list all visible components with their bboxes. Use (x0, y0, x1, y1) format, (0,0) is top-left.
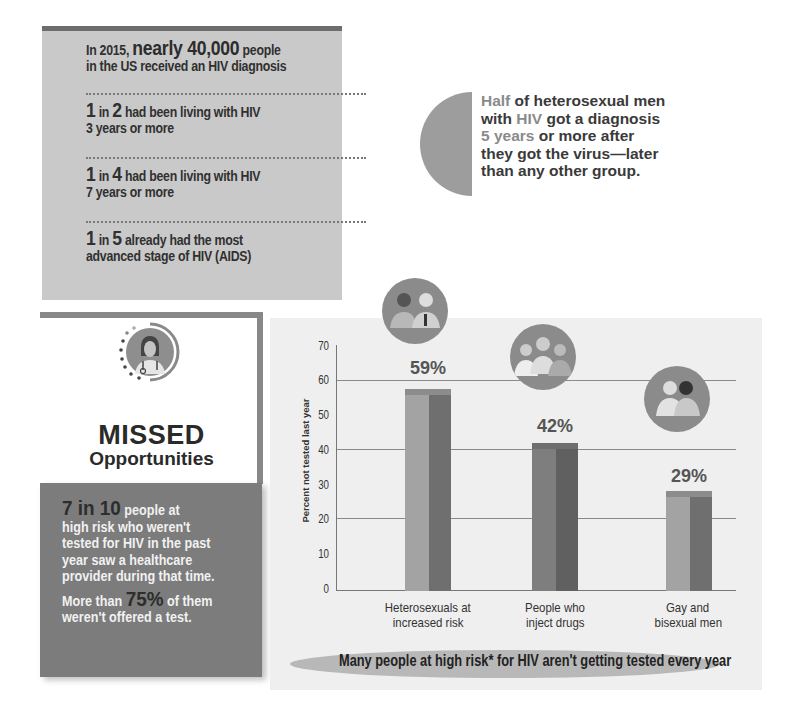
callout-highlight: Half (481, 92, 510, 109)
dotted-divider (86, 157, 366, 159)
stat-text: had been living with HIV (122, 168, 261, 184)
callout-text: got a diagnosis (542, 110, 660, 127)
callout-text: they got the virus—later (481, 145, 658, 162)
doctor-icon (110, 318, 182, 408)
stat-line2: 7 years or more (86, 185, 174, 200)
y-tick: 50 (311, 407, 329, 422)
callout-highlight: HIV (516, 110, 542, 127)
stat-in: in (96, 232, 113, 248)
group-avatar-icon (510, 324, 576, 390)
intro-pre: In 2015, (86, 42, 132, 58)
intro-bold: nearly 40,000 (132, 37, 239, 59)
stat-in: in (96, 168, 113, 184)
y-tick: 20 (311, 511, 329, 526)
intro-post: people (239, 42, 280, 58)
stat-7-in-10: 7 in 10 (62, 496, 121, 519)
y-tick: 60 (311, 372, 329, 387)
stat-line: high risk who weren't (62, 519, 190, 536)
stat-text: had been living with HIV (122, 104, 261, 120)
stat-line: year saw a healthcare (62, 552, 192, 569)
couple-avatar-icon (382, 278, 448, 344)
stat-text: of them (164, 593, 213, 609)
stat-number: 1 (86, 163, 96, 185)
stat-line: tested for HIV in the past (62, 535, 210, 552)
category-label: Heterosexuals atincreased risk (363, 600, 493, 630)
missed-subtitle: Opportunities (40, 448, 263, 470)
y-axis-label: Percent not tested last year (300, 386, 311, 536)
category-label: Gay andbisexual men (623, 600, 753, 630)
bar-drug-users[interactable] (532, 443, 578, 591)
y-tick: 30 (311, 477, 329, 492)
bar-heterosexuals[interactable] (405, 389, 451, 591)
half-circle-icon (420, 92, 472, 196)
bar-value-label: 59% (388, 358, 468, 379)
stat-in: in (96, 104, 113, 120)
y-tick: 0 (311, 581, 329, 596)
stat-line2: 3 years or more (86, 121, 174, 136)
missed-stats-text: 7 in 10 people at high risk who weren't … (62, 500, 262, 626)
chart-caption: Many people at high risk* for HIV aren't… (290, 652, 750, 670)
stats-panel: In 2015, nearly 40,000 people in the US … (42, 26, 342, 300)
stat-75-percent: 75% (126, 587, 164, 610)
stat-number: 2 (112, 99, 122, 121)
stat-number: 1 (86, 99, 96, 121)
missed-title: MISSED (40, 420, 263, 451)
y-tick: 40 (311, 442, 329, 457)
stat-item: 1 in 5 already had the most advanced sta… (86, 231, 326, 264)
y-tick: 70 (311, 338, 329, 353)
stat-line2: advanced stage of HIV (AIDS) (86, 249, 251, 264)
stat-number: 1 (86, 227, 96, 249)
heterosexual-men-callout: Half of heterosexual men with HIV got a … (481, 92, 781, 180)
bar-value-label: 42% (515, 416, 595, 437)
bar-value-label: 29% (649, 466, 729, 487)
dotted-divider (86, 93, 366, 95)
stat-intro: In 2015, nearly 40,000 people in the US … (86, 41, 326, 74)
stat-text: already had the most (122, 232, 243, 248)
stat-item: 1 in 2 had been living with HIV 3 years … (86, 103, 326, 136)
callout-text: with (481, 110, 516, 127)
category-label: People whoinject drugs (490, 600, 620, 630)
y-axis (336, 345, 337, 590)
dotted-divider (86, 221, 366, 223)
bar-gay-bisexual-men[interactable] (666, 491, 712, 591)
stat-line: provider during that time. (62, 568, 215, 585)
callout-text: than any other group. (481, 162, 640, 179)
stat-number: 5 (112, 227, 122, 249)
stat-number: 4 (112, 163, 122, 185)
stat-text: More than (62, 593, 126, 609)
callout-highlight: 5 years (481, 127, 534, 144)
intro-line2: in the US received an HIV diagnosis (86, 59, 286, 74)
stat-item: 1 in 4 had been living with HIV 7 years … (86, 167, 326, 200)
callout-text: or more after (534, 127, 634, 144)
men-avatar-icon (644, 366, 710, 432)
stat-line: weren't offered a test. (62, 609, 192, 626)
stat-text: people at (121, 502, 180, 518)
callout-text: of heterosexual men (510, 92, 665, 109)
y-tick: 10 (311, 546, 329, 561)
